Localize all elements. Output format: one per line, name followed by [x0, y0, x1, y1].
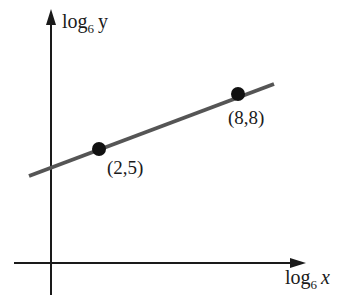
- y-axis-arrow-icon: [46, 9, 56, 25]
- point-label: (8,8): [228, 107, 264, 129]
- point-label: (2,5): [107, 157, 143, 179]
- log-log-graph: log6y log6x (2,5) (8,8): [0, 0, 344, 304]
- point-2-5: (2,5): [92, 142, 143, 179]
- x-axis: log6x: [14, 258, 330, 292]
- x-axis-label: log6x: [285, 266, 330, 292]
- y-axis-label: log6y: [62, 10, 108, 36]
